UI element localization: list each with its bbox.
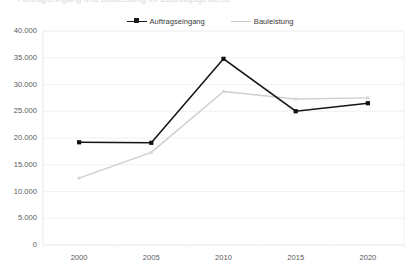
y-axis-tick-label: 40.000 bbox=[14, 26, 37, 35]
data-point-marker bbox=[222, 90, 225, 93]
y-axis-tick-label: 5.000 bbox=[18, 213, 37, 222]
data-point-marker bbox=[150, 151, 153, 154]
y-axis-tick-label: 35.000 bbox=[14, 53, 37, 62]
chart-container: Auftragseingang und Bauleistung im Bauha… bbox=[0, 0, 420, 272]
data-series bbox=[77, 57, 370, 180]
chart-svg: 05.00010.00015.00020.00025.00030.00035.0… bbox=[0, 0, 420, 272]
data-point-marker bbox=[366, 101, 370, 105]
y-axis-tick-label: 30.000 bbox=[14, 80, 37, 89]
data-point-marker bbox=[294, 109, 298, 113]
x-axis-tick-labels: 20002005201020152020 bbox=[71, 253, 377, 262]
plot-area: 05.00010.00015.00020.00025.00030.00035.0… bbox=[0, 0, 420, 272]
x-axis-tick-label: 2010 bbox=[215, 253, 232, 262]
y-axis-tick-labels: 05.00010.00015.00020.00025.00030.00035.0… bbox=[14, 26, 37, 249]
y-axis-tick-label: 20.000 bbox=[14, 133, 37, 142]
y-axis-tick-label: 0 bbox=[33, 240, 37, 249]
x-axis-tick-label: 2020 bbox=[359, 253, 376, 262]
x-axis-tick-label: 2015 bbox=[287, 253, 304, 262]
series-line-auftragseingang bbox=[79, 59, 368, 143]
y-axis-tick-label: 10.000 bbox=[14, 187, 37, 196]
data-point-marker bbox=[366, 96, 369, 99]
x-axis-tick-label: 2000 bbox=[71, 253, 88, 262]
y-axis-tick-label: 15.000 bbox=[14, 160, 37, 169]
x-axis-tick-label: 2005 bbox=[143, 253, 160, 262]
data-point-marker bbox=[78, 177, 81, 180]
data-point-marker bbox=[221, 57, 225, 61]
data-point-marker bbox=[149, 141, 153, 145]
data-point-marker bbox=[294, 97, 297, 100]
y-axis-tick-label: 25.000 bbox=[14, 106, 37, 115]
data-point-marker bbox=[77, 140, 81, 144]
gridlines bbox=[43, 31, 404, 249]
